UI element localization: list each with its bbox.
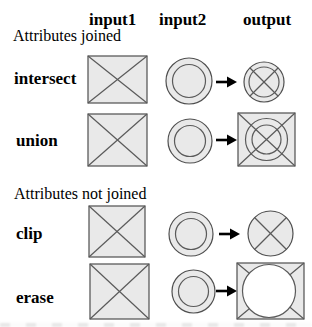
column-header-input2: input2	[159, 10, 206, 30]
arrow-icon	[216, 133, 238, 147]
section-label-attributes-not-joined: Attributes not joined	[14, 185, 146, 203]
intersect-output-shape	[243, 61, 285, 103]
union-output-shape	[237, 112, 297, 168]
union-input1-square	[87, 113, 149, 168]
row-label-erase: erase	[16, 288, 54, 308]
clip-input2-circles	[168, 211, 214, 257]
union-input2-circles	[167, 118, 213, 164]
row-label-clip: clip	[16, 224, 42, 244]
cropped-text-remnant	[0, 323, 312, 327]
intersect-input1-square	[87, 55, 149, 105]
column-header-output: output	[243, 10, 291, 30]
overlay-operations-diagram: input1 input2 output Attributes joined i…	[0, 0, 312, 327]
row-label-intersect: intersect	[14, 69, 76, 89]
section-label-attributes-joined: Attributes joined	[13, 27, 121, 45]
intersect-input2-circles	[165, 57, 213, 105]
row-label-union: union	[16, 131, 58, 151]
arrow-icon	[216, 75, 238, 89]
erase-input1-square	[89, 263, 151, 321]
clip-input1-square	[88, 205, 147, 259]
arrow-icon	[216, 284, 238, 298]
clip-output-shape	[247, 210, 294, 257]
arrow-icon	[219, 227, 241, 241]
erase-output-shape	[236, 262, 306, 321]
erase-input2-circles	[171, 269, 216, 314]
